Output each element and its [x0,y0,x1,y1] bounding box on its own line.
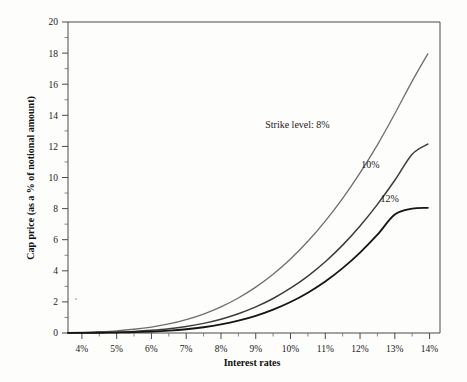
x-tick-label: 8% [215,344,228,354]
y-tick-label: 10 [49,173,59,183]
scan-speck [75,298,77,300]
x-axis-ticks [82,333,430,339]
y-axis-title: Cap price (as a % of notional amount) [25,96,37,260]
x-tick-label: 10% [282,344,300,354]
y-tick-label: 4 [53,266,58,276]
annotation-label-1: 10% [361,159,379,170]
y-axis-tick-labels: 02468101214161820 [49,17,59,338]
x-tick-label: 7% [180,344,193,354]
x-tick-label: 5% [110,344,123,354]
y-tick-label: 6 [53,235,58,245]
curve-series-0 [68,54,428,333]
chart-canvas: 4%5%6%7%8%9%10%11%12%13%14% 024681012141… [0,0,467,382]
annotation-label-2: 12% [380,193,398,204]
y-tick-label: 18 [49,49,59,59]
x-tick-label: 12% [351,344,369,354]
x-axis-tick-labels: 4%5%6%7%8%9%10%11%12%13%14% [76,344,439,354]
y-tick-label: 0 [53,328,58,338]
annotation-label-0: Strike level: 8% [265,119,329,130]
x-tick-label: 9% [249,344,262,354]
x-tick-label: 4% [76,344,89,354]
chart-figure: 4%5%6%7%8%9%10%11%12%13%14% 024681012141… [0,0,467,382]
y-axis-ticks [62,22,68,333]
y-tick-label: 8 [53,204,58,214]
x-tick-label: 13% [386,344,404,354]
y-tick-label: 20 [49,17,59,27]
plot-frame [68,22,440,333]
plot-border [68,22,440,333]
series-annotations: Strike level: 8%10%12% [265,119,399,204]
x-axis-title: Interest rates [224,357,281,368]
y-tick-label: 2 [53,297,58,307]
data-curves [68,54,428,333]
y-tick-label: 12 [49,142,59,152]
curve-series-2 [68,208,428,333]
y-tick-label: 14 [49,111,59,121]
y-tick-label: 16 [49,80,59,90]
x-tick-label: 11% [317,344,334,354]
x-tick-label: 14% [421,344,439,354]
x-tick-label: 6% [145,344,158,354]
